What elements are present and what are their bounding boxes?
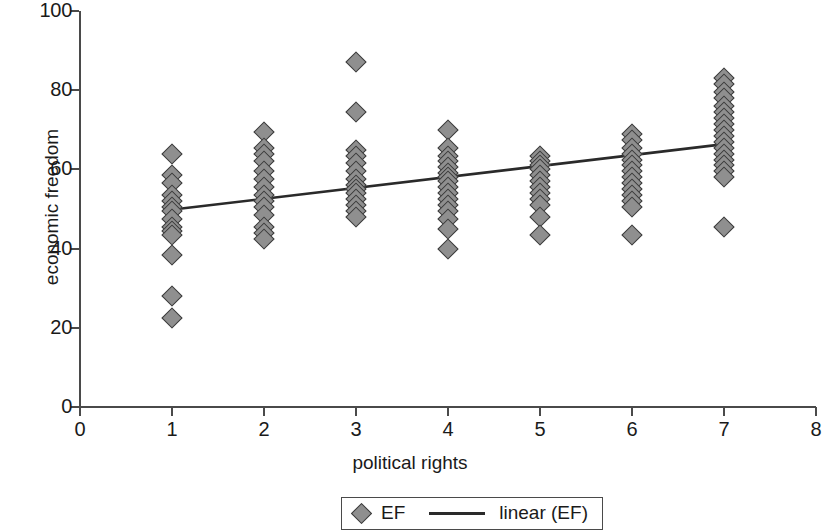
legend-label-linear-ef: linear (EF) [499,502,588,524]
x-tick-mark [447,407,449,416]
legend-label-ef: EF [381,502,405,524]
y-tick-label-100: 100 [26,0,72,22]
x-tick-label-7: 7 [704,418,744,441]
x-tick-label-3: 3 [336,418,376,441]
x-tick-mark [263,407,265,416]
y-tick-mark [71,327,79,329]
legend-diamond-icon [351,502,372,523]
x-tick-label-0: 0 [60,418,100,441]
x-tick-mark [723,407,725,416]
y-tick-mark [71,10,79,12]
x-tick-label-8: 8 [796,418,826,441]
y-axis-title: economic freedom [41,77,63,337]
x-tick-label-6: 6 [612,418,652,441]
y-tick-mark [71,168,79,170]
legend-line-icon [429,512,485,515]
y-tick-label-0: 0 [26,395,72,418]
plot-area [80,11,816,407]
x-tick-label-5: 5 [520,418,560,441]
x-tick-mark [539,407,541,416]
x-axis-title: political rights [0,452,820,474]
x-tick-mark [815,407,817,416]
chart-legend: EF linear (EF) [341,497,603,530]
x-tick-mark [171,407,173,416]
x-tick-mark [355,407,357,416]
y-tick-mark [71,89,79,91]
x-tick-label-4: 4 [428,418,468,441]
y-tick-mark [71,406,79,408]
x-tick-label-1: 1 [152,418,192,441]
x-tick-mark [631,407,633,416]
x-tick-label-2: 2 [244,418,284,441]
x-tick-mark [79,407,81,416]
y-tick-mark [71,248,79,250]
